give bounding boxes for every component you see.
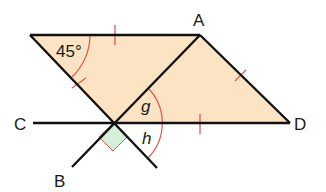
label-d: D [294,115,306,134]
right-angle-marker [99,123,127,151]
label-a: A [193,11,205,30]
label-angle-h: h [142,129,151,148]
label-b: B [54,172,65,191]
label-c: C [14,115,26,134]
geometry-diagram: A D C B 45° g h [0,0,326,192]
label-angle-45: 45° [56,42,82,61]
label-angle-g: g [141,97,151,116]
